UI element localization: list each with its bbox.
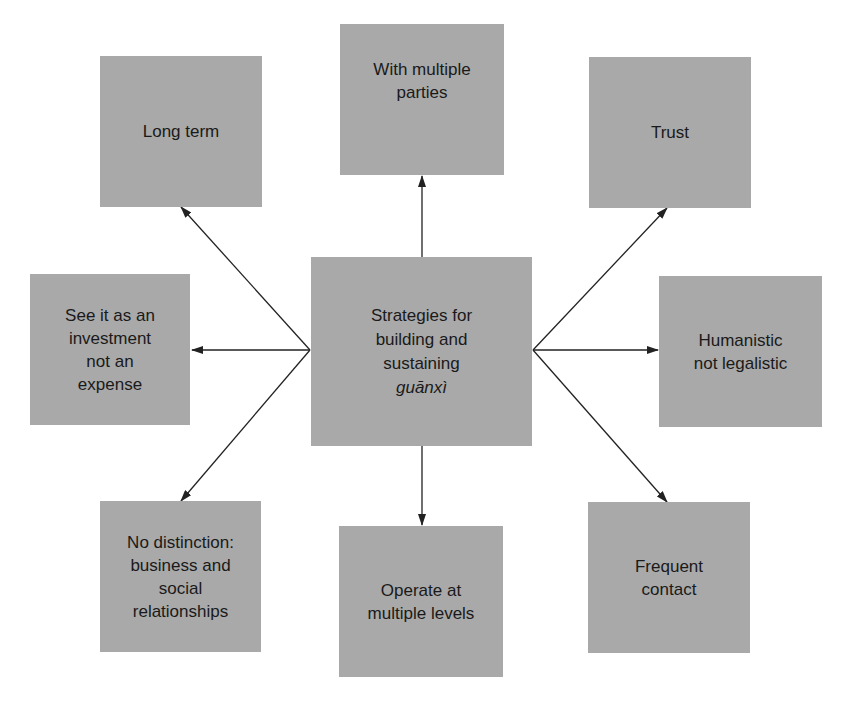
node-multiple-levels: Operate at multiple levels — [339, 526, 503, 677]
node-label: Trust — [651, 121, 689, 144]
node-label: With multiple parties — [373, 58, 470, 104]
node-investment: See it as an investment not an expense — [30, 274, 190, 425]
arrow-to-trust — [533, 208, 667, 350]
node-long-term: Long term — [100, 56, 262, 207]
node-label: See it as an investment not an expense — [65, 304, 155, 396]
center-node-term: guānxì — [371, 376, 472, 400]
node-humanistic: Humanistic not legalistic — [659, 276, 822, 427]
arrow-to-no-distinction — [181, 350, 310, 501]
node-multiple-parties: With multiple parties — [340, 24, 504, 175]
arrow-to-long-term — [181, 207, 310, 350]
node-label: Frequent contact — [635, 555, 703, 601]
node-label: Operate at multiple levels — [368, 579, 475, 625]
node-label: Long term — [143, 120, 220, 143]
center-node-label: Strategies for building and sustaining — [371, 306, 472, 373]
center-node: Strategies for building and sustaining g… — [311, 257, 532, 446]
node-frequent-contact: Frequent contact — [588, 502, 750, 653]
node-label: No distinction: business and social rela… — [127, 531, 234, 623]
guanxi-strategy-diagram: Strategies for building and sustaining g… — [0, 0, 850, 701]
node-no-distinction: No distinction: business and social rela… — [100, 501, 261, 652]
node-trust: Trust — [589, 57, 751, 208]
arrow-to-frequent-contact — [533, 350, 667, 502]
node-label: Humanistic not legalistic — [694, 329, 788, 375]
